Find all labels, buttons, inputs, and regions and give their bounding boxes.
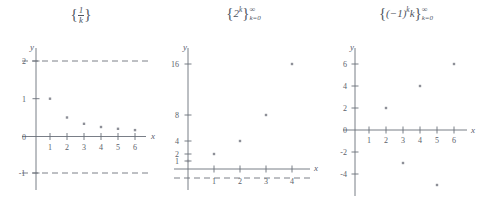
data-point	[66, 116, 68, 118]
y-tick-label-1: 1	[22, 95, 26, 104]
panel-one-over-k: {1k} x y 2 1 0 -1 1	[0, 0, 162, 200]
data-point	[265, 114, 267, 116]
x-axis-label: x	[150, 131, 155, 141]
x-tick-label-3: 3	[401, 136, 405, 145]
data-point	[436, 184, 438, 186]
plot-one-over-k: x y 2 1 0 -1 1 2 3 4 5 6	[0, 0, 162, 200]
data-point-series	[385, 63, 455, 186]
y-axis-label: y	[29, 42, 34, 52]
y-tick-label-8: 8	[175, 111, 179, 120]
data-point	[134, 129, 136, 131]
data-point	[385, 107, 387, 109]
x-tick-label-2: 2	[384, 136, 388, 145]
panel-alternating-k: {(−1)kk}∞k=0 x y 6 4 2 0 -2 -4	[325, 0, 487, 200]
y-tick-label-neg1: -1	[19, 169, 26, 178]
data-point	[239, 140, 241, 142]
y-tick-label-2: 2	[343, 104, 347, 113]
data-point	[187, 160, 189, 162]
data-point-series	[187, 63, 293, 162]
x-axis-label: x	[313, 163, 318, 173]
y-tick-label-neg4: -4	[340, 170, 347, 179]
data-point	[213, 153, 215, 155]
x-tick-label-4: 4	[290, 177, 294, 186]
data-point	[83, 123, 85, 125]
y-tick-label-4: 4	[343, 82, 347, 91]
data-point	[402, 162, 404, 164]
x-tick-label-3: 3	[264, 177, 268, 186]
x-tick-label-2: 2	[238, 177, 242, 186]
data-point	[419, 85, 421, 87]
x-tick-label-1: 1	[48, 143, 52, 152]
y-tick-label-2: 2	[22, 57, 26, 66]
y-tick-label-1: 1	[175, 157, 179, 166]
sequence-plots-figure: {1k} x y 2 1 0 -1 1	[0, 0, 487, 200]
x-tick-label-6: 6	[133, 143, 137, 152]
x-tick-label-5: 5	[116, 143, 120, 152]
plot-two-to-k: x y 16 8 4 2 1 1 2 3 4	[162, 0, 325, 200]
y-tick-label-16: 16	[171, 60, 179, 69]
y-tick-label-0: 0	[22, 133, 26, 142]
x-tick-label-4: 4	[99, 143, 103, 152]
plot-alternating-k: x y 6 4 2 0 -2 -4 1 2 3 4 5 6	[325, 0, 487, 200]
data-point	[453, 63, 455, 65]
x-tick-label-3: 3	[82, 143, 86, 152]
x-tick-label-2: 2	[65, 143, 69, 152]
x-tick-label-5: 5	[435, 136, 439, 145]
y-axis-label: y	[182, 42, 187, 52]
data-point-series	[49, 98, 136, 132]
y-tick-label-0: 0	[343, 126, 347, 135]
data-point	[117, 128, 119, 130]
data-point	[100, 126, 102, 128]
data-point	[291, 63, 293, 65]
y-tick-label-neg2: -2	[340, 148, 347, 157]
data-point	[49, 98, 51, 100]
x-tick-label-1: 1	[212, 177, 216, 186]
y-axis-label: y	[349, 42, 354, 52]
panel-two-to-k: {2k}∞k=0 x y 16 8 4 2 1 1	[162, 0, 325, 200]
x-axis-label: x	[470, 125, 475, 135]
x-tick-label-4: 4	[418, 136, 422, 145]
y-tick-label-4: 4	[175, 137, 179, 146]
x-tick-label-1: 1	[367, 136, 371, 145]
x-tick-label-6: 6	[452, 136, 456, 145]
y-tick-label-6: 6	[343, 60, 347, 69]
